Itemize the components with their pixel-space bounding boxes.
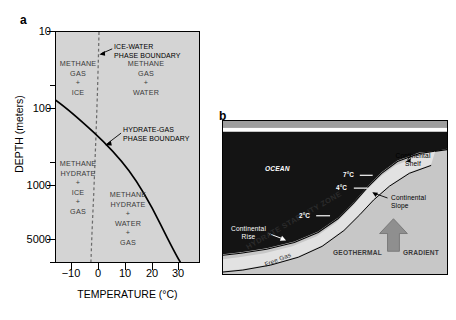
y-tick-label-5000: 5000 (7, 233, 51, 245)
region-label-methane-gas-ice: METHANE GAS + ICE (60, 59, 97, 97)
ocean-label: OCEAN (265, 165, 290, 173)
phase-diagram-plot-area: METHANE GAS + ICE METHANE GAS + WATER ME… (55, 31, 200, 263)
y-tick-label-10: 10 (7, 25, 51, 37)
temp-4c-label: 4°C (336, 184, 347, 191)
temp-7c-upper-label: 7°C (343, 171, 354, 178)
region-label-methane-hydrate-water-gas: METHANE HYDRATE + WATER + GAS (110, 190, 147, 247)
x-tick-label-30: 30 (163, 267, 193, 279)
ice-water-leader-arrowhead (99, 51, 105, 56)
region-label-methane-gas-water: METHANE GAS + WATER (120, 59, 173, 97)
x-tick-label--10: −10 (56, 267, 86, 279)
panel-b: OCEAN Continental Shelf Continental Slop… (222, 120, 448, 275)
x-tick-label-10: 10 (110, 267, 140, 279)
y-tick-label-group: 10 100 1000 5000 (0, 31, 51, 263)
temp-2c-label: 2°C (299, 212, 310, 219)
annotation-ice-water-phase-boundary: ICE-WATER PHASE BOUNDARY (114, 42, 181, 60)
region-label-methane-hydrate-ice-gas: METHANE HYDRATE + ICE + GAS (60, 159, 97, 216)
hydrate-gas-leader-arrowhead (105, 141, 112, 146)
y-tick-label-1000: 1000 (7, 179, 51, 191)
continental-slope-label: Continental Slope (391, 194, 426, 211)
x-axis-label: TEMPERATURE (°C) (40, 288, 215, 300)
annotation-hydrate-gas-phase-boundary: HYDRATE-GAS PHASE BOUNDARY (123, 125, 190, 143)
figure-root: a DEPTH (meters) 10 100 1000 5000 −10 0 … (0, 0, 456, 320)
geothermal-gradient-left-label: GEOTHERMAL (333, 249, 382, 256)
continental-shelf-label: Continental Shelf (395, 152, 430, 169)
x-tick-label-0: 0 (83, 267, 113, 279)
panel-a: a DEPTH (meters) 10 100 1000 5000 −10 0 … (0, 0, 215, 320)
y-tick-label-100: 100 (7, 102, 51, 114)
geothermal-gradient-right-label: GRADIENT (403, 249, 439, 256)
